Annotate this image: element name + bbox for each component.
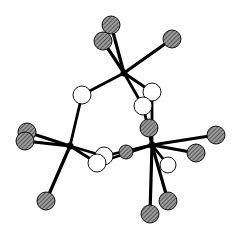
open-bridging-atom [73, 86, 91, 104]
hatched-ligand-atom [207, 126, 225, 144]
atom-layer [16, 16, 225, 223]
hatched-ligand-atom [16, 132, 34, 150]
metal-center-atom [149, 142, 156, 149]
metal-center-atom [67, 143, 74, 150]
molecule-diagram [0, 0, 241, 233]
bond-layer [25, 25, 216, 214]
hatched-ligand-atom [159, 192, 177, 210]
open-bridging-atom [160, 157, 176, 173]
hatched-ligand-atom [94, 32, 112, 50]
bond [152, 135, 216, 145]
hatched-ligand-atom [140, 119, 158, 137]
hatched-ligand-atom [102, 16, 120, 34]
molecular-structure-figure [0, 0, 241, 233]
hatched-ligand-atom [163, 30, 181, 48]
hatched-ligand-atom [141, 205, 159, 223]
metal-center-atom [121, 70, 128, 77]
bond [150, 145, 152, 214]
hatched-ligand-atom [119, 145, 133, 159]
open-bridging-atom [134, 97, 152, 115]
hatched-ligand-atom [37, 192, 55, 210]
hatched-ligand-atom [187, 144, 205, 162]
open-bridging-atom [88, 154, 106, 172]
